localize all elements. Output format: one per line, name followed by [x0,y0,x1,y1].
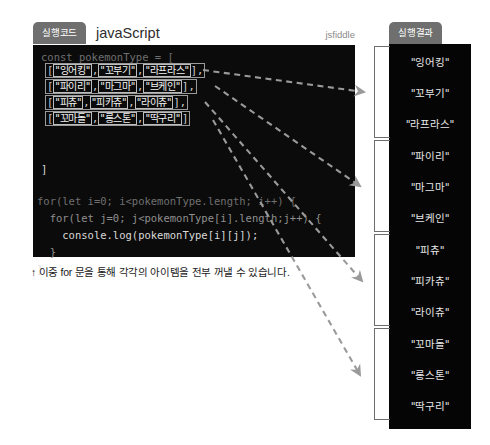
result-panel: "잉어킹" "꼬부기" "라프라스" "파이리" "마그마" "브케인" "피츄… [389,44,471,429]
code-loop-line-2: for(let j=0; j<pokemonType[i].length;j++… [37,212,321,224]
code-loop-line-3: console.log(pokemonType[i][j]); [37,229,258,241]
editor-tabstrip: 실행코드 javaScript jsfiddle [33,22,355,45]
array-item: "피츄" [53,96,83,109]
array-literal-rows: [ "잉어킹" , "꼬부기" , "라프라스" ], [ "파이리" , "마… [45,63,205,127]
result-item: "피츄" [389,242,471,257]
array-row: [ "잉어킹" , "꼬부기" , "라프라스" ], [45,63,205,78]
code-array-close-line: ] [41,161,47,177]
array-item: "라이츄" [135,96,174,109]
result-item: "라프라스" [389,116,471,131]
editor-source-label[interactable]: jsfiddle [325,23,355,45]
array-close-bracket: ], [182,80,195,93]
array-close-bracket: ], [191,64,204,77]
result-item: "피카츄" [389,273,471,288]
result-item: "마그마" [389,179,471,194]
array-row: [ "피츄" , "피카츄" , "라이츄" ], [45,95,188,110]
array-close-bracket: ] [182,112,188,125]
array-item: "꼬마돌" [53,112,92,125]
array-item: "롱스톤" [98,112,137,125]
result-item: "라이츄" [389,304,471,319]
result-item: "꼬부기" [389,85,471,100]
array-item: "꼬부기" [98,64,137,77]
tab-run-code[interactable]: 실행코드 [33,22,86,44]
array-close-bracket: ], [173,96,186,109]
result-group-bracket [374,328,390,420]
array-item: "브케인" [143,80,182,93]
array-item: "잉어킹" [53,64,92,77]
array-item: "마그마" [98,80,137,93]
code-panel: const pokemonType = [ [ "잉어킹" , "꼬부기" , … [33,45,355,257]
result-item: "딱구리" [389,398,471,413]
code-loop-line-1: for(let i=0; i<pokemonType.length; i++) … [37,195,296,207]
result-group-bracket [374,140,390,232]
editor-language-label: javaScript [96,22,160,44]
array-row: [ "꼬마돌" , "롱스톤" , "딱구리" ] [45,111,190,126]
result-group-bracket [374,46,390,138]
caption-text: ↑ 이중 for 문을 통해 각각의 아이템을 전부 꺼낼 수 있습니다. [31,264,290,279]
array-item: "파이리" [53,80,92,93]
array-row: [ "파이리" , "마그마" , "브케인" ], [45,79,197,94]
code-loop-line-4: } [37,246,56,258]
result-group-bracket [374,234,390,326]
result-item: "파이리" [389,148,471,163]
array-item: "딱구리" [143,112,182,125]
tab-run-result[interactable]: 실행결과 [389,22,442,44]
result-item: "롱스톤" [389,367,471,382]
result-item: "잉어킹" [389,54,471,69]
array-item: "피카츄" [90,96,129,109]
result-item: "브케인" [389,210,471,225]
array-item: "라프라스" [143,64,190,77]
result-item: "꼬마돌" [389,336,471,351]
